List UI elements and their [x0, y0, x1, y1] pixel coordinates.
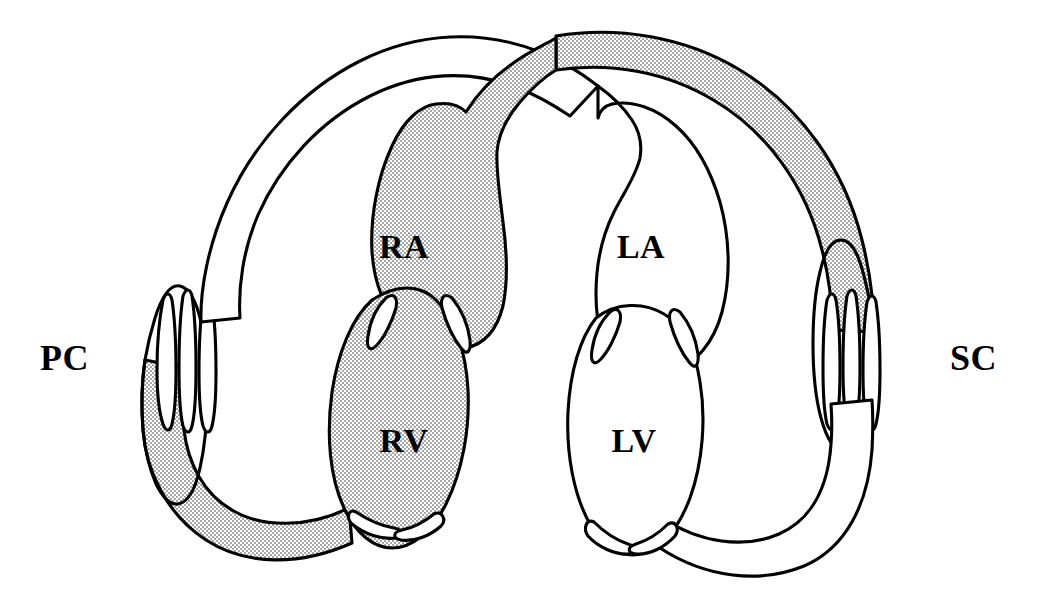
double-circulation-diagram: PC SC RA LA RV LV — [0, 0, 1037, 616]
diagram-canvas: PC SC RA LA RV LV — [0, 0, 1037, 616]
label-systemic-capillaries: SC — [950, 338, 997, 378]
label-left-ventricle: LV — [611, 422, 656, 459]
label-right-atrium: RA — [379, 228, 429, 265]
label-right-ventricle: RV — [380, 422, 429, 459]
label-pulmonary-capillaries: PC — [40, 338, 89, 378]
label-left-atrium: LA — [617, 228, 665, 265]
